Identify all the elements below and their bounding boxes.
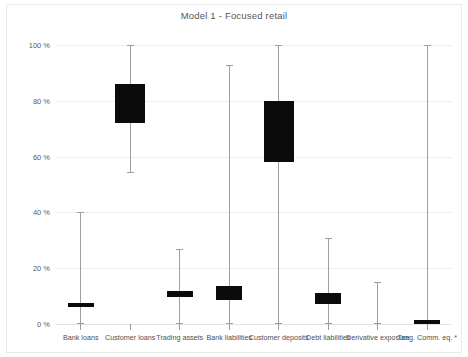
whisker-line (278, 45, 279, 324)
median-bar (68, 303, 94, 307)
x-axis-tick (179, 324, 180, 330)
y-tick-label-20: 20 % (14, 264, 50, 273)
x-axis-tick (278, 324, 279, 330)
gridline-60 (56, 157, 452, 158)
whisker-cap-high (424, 45, 431, 46)
whisker-cap-high (374, 282, 381, 283)
whisker-cap-high (127, 45, 134, 46)
whisker-cap-low (127, 172, 134, 173)
plot-area: Bank loansCustomer loansTrading assetsBa… (56, 45, 452, 324)
whisker-line (229, 65, 230, 324)
median-bar (216, 286, 242, 300)
gridline-100 (56, 45, 452, 46)
whisker-cap-high (226, 65, 233, 66)
median-bar (315, 293, 341, 304)
interquartile-box (115, 84, 145, 123)
x-axis-tick (377, 324, 378, 330)
y-tick-label-40: 40 % (14, 208, 50, 217)
y-tick-label-60: 60 % (14, 153, 50, 162)
whisker-line (328, 238, 329, 324)
whisker-line (179, 249, 180, 324)
x-axis-tick (130, 324, 131, 330)
chart-title: Model 1 - Focused retail (0, 10, 468, 21)
gridline-20 (56, 268, 452, 269)
whisker-cap-high (275, 45, 282, 46)
y-tick-label-80: 80 % (14, 97, 50, 106)
y-tick-label-100: 100 % (14, 41, 50, 50)
whisker-cap-high (77, 212, 84, 213)
gridline-40 (56, 212, 452, 213)
chart-figure: Model 1 - Focused retail 100 % 80 % 60 %… (0, 0, 468, 357)
interquartile-box (264, 101, 294, 162)
x-tick-label: Tang. Comm. eq. * (389, 333, 465, 343)
x-axis-tick (80, 324, 81, 330)
whisker-cap-high (176, 249, 183, 250)
median-bar (167, 291, 193, 298)
x-axis-line (56, 324, 452, 325)
whisker-line (80, 212, 81, 324)
x-axis-tick (229, 324, 230, 330)
whisker-line (377, 282, 378, 324)
x-axis-tick (328, 324, 329, 330)
whisker-line (427, 45, 428, 324)
x-axis-tick (427, 324, 428, 330)
y-tick-label-0: 0 % (14, 320, 50, 329)
whisker-cap-high (325, 238, 332, 239)
